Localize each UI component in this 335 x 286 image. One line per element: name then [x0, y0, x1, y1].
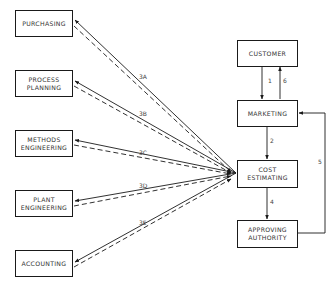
edge-label-1: 1 — [268, 77, 272, 84]
box-marketing: MARKETING — [237, 100, 298, 127]
box-approving-authority: APPROVING AUTHORITY — [237, 220, 298, 248]
box-plant-engineering: PLANT ENGINEERING — [15, 190, 73, 217]
box-process-planning: PROCESS PLANNING — [15, 70, 73, 97]
edge-label-3a: 3A — [139, 73, 147, 80]
edge-label-3e: 3E — [139, 219, 147, 226]
edge-label-4: 4 — [270, 198, 274, 205]
edge-label-3b: 3B — [139, 110, 147, 117]
box-cost-estimating: COST ESTIMATING — [237, 160, 298, 188]
box-methods-engineering: METHODS ENGINEERING — [15, 130, 73, 157]
edge-label-3c: 3C — [139, 149, 147, 156]
edge-label-6: 6 — [283, 77, 287, 84]
edge-label-2: 2 — [270, 137, 274, 144]
box-purchasing: PURCHASING — [15, 10, 73, 37]
edge-label-3d: 3D — [139, 182, 147, 189]
edge-label-5: 5 — [318, 158, 322, 165]
box-customer: CUSTOMER — [237, 40, 298, 67]
box-accounting: ACCOUNTING — [15, 250, 73, 277]
